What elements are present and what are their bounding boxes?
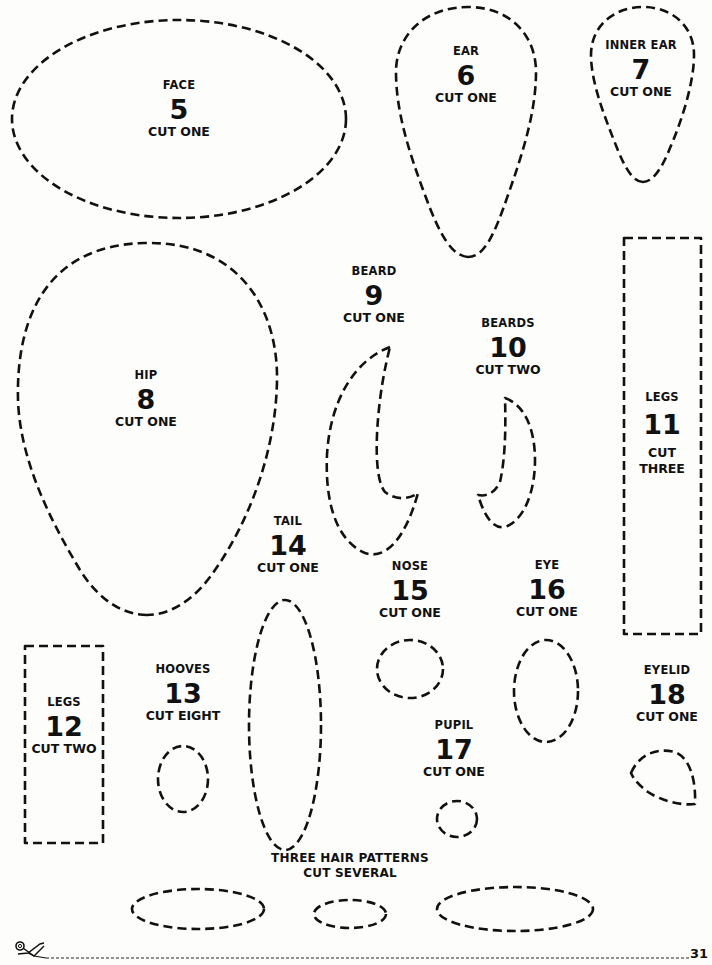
scissors-icon	[14, 940, 48, 960]
piece-quantity: CUT EIGHT	[146, 710, 221, 723]
eye-pattern-outline	[514, 640, 578, 742]
tail-label: TAIL 14 CUT ONE	[257, 516, 319, 574]
pattern-shapes	[0, 0, 712, 965]
piece-name: LEGS	[31, 697, 96, 709]
piece-quantity: CUT ONE	[605, 86, 677, 99]
hip-label: HIP 8 CUT ONE	[115, 370, 177, 428]
page-number: 31	[690, 946, 708, 961]
pupil-pattern-outline	[437, 801, 477, 837]
piece-quantity: CUT ONE	[257, 562, 319, 575]
piece-quantity-line2: THREE	[639, 461, 685, 477]
beards-label: BEARDS 10 CUT TWO	[475, 318, 540, 376]
piece-number: 18	[636, 681, 698, 708]
beards-pattern-outline	[478, 398, 535, 527]
beard-label: BEARD 9 CUT ONE	[343, 266, 405, 324]
piece-quantity: CUT ONE	[423, 766, 485, 779]
piece-number: 10	[475, 334, 540, 361]
face-label: FACE 5 CUT ONE	[148, 80, 210, 138]
piece-name: EYELID	[636, 665, 698, 677]
piece-quantity: CUT ONE	[435, 92, 497, 105]
piece-number: 16	[516, 576, 578, 603]
piece-name: INNER EAR	[605, 40, 677, 52]
hair-pattern-2-outline	[314, 900, 386, 928]
piece-quantity: CUT TWO	[475, 364, 540, 377]
piece-quantity: CUT ONE	[343, 312, 405, 325]
piece-name: EYE	[516, 560, 578, 572]
piece-number: 15	[379, 577, 441, 604]
hip-pattern-outline	[18, 243, 277, 615]
piece-name: EAR	[435, 46, 497, 58]
ear-label: EAR 6 CUT ONE	[435, 46, 497, 104]
hair-patterns-quantity: CUT SEVERAL	[271, 866, 429, 881]
piece-number: 12	[31, 713, 96, 740]
inner-ear-label: INNER EAR 7 CUT ONE	[605, 40, 677, 98]
hair-pattern-3-outline	[437, 887, 593, 931]
hooves-pattern-outline	[158, 746, 208, 812]
piece-name: TAIL	[257, 516, 319, 528]
piece-quantity: CUT TWO	[31, 743, 96, 756]
legs-11-label: LEGS 11 CUT THREE	[639, 390, 685, 476]
piece-number: 6	[435, 62, 497, 89]
piece-name: BEARDS	[475, 318, 540, 330]
legs-12-label: LEGS 12 CUT TWO	[31, 697, 96, 755]
hair-patterns-title: THREE HAIR PATTERNS	[271, 851, 429, 866]
hair-patterns-label: THREE HAIR PATTERNS CUT SEVERAL	[271, 851, 429, 881]
piece-quantity: CUT ONE	[636, 711, 698, 724]
piece-quantity: CUT ONE	[379, 607, 441, 620]
piece-quantity: CUT ONE	[115, 416, 177, 429]
hooves-label: HOOVES 13 CUT EIGHT	[146, 664, 221, 722]
piece-number: 11	[639, 408, 685, 442]
piece-name: BEARD	[343, 266, 405, 278]
hair-pattern-1-outline	[132, 889, 264, 929]
piece-quantity-line1: CUT	[639, 445, 685, 461]
piece-name: FACE	[148, 80, 210, 92]
piece-name: LEGS	[639, 390, 685, 404]
piece-quantity: CUT ONE	[516, 606, 578, 619]
eyelid-label: EYELID 18 CUT ONE	[636, 665, 698, 723]
beard-pattern-outline	[327, 347, 418, 554]
piece-number: 13	[146, 680, 221, 707]
piece-number: 17	[423, 736, 485, 763]
piece-number: 14	[257, 532, 319, 559]
pupil-label: PUPIL 17 CUT ONE	[423, 720, 485, 778]
pattern-page: FACE 5 CUT ONE EAR 6 CUT ONE INNER EAR 7…	[0, 0, 712, 965]
nose-pattern-outline	[377, 640, 443, 698]
piece-name: PUPIL	[423, 720, 485, 732]
piece-number: 8	[115, 386, 177, 413]
eye-label: EYE 16 CUT ONE	[516, 560, 578, 618]
piece-number: 5	[148, 96, 210, 123]
piece-number: 9	[343, 282, 405, 309]
piece-quantity: CUT ONE	[148, 126, 210, 139]
piece-name: HIP	[115, 370, 177, 382]
piece-name: HOOVES	[146, 664, 221, 676]
nose-label: NOSE 15 CUT ONE	[379, 561, 441, 619]
piece-name: NOSE	[379, 561, 441, 573]
tail-pattern-outline	[249, 600, 321, 850]
piece-number: 7	[605, 56, 677, 83]
eyelid-pattern-outline	[631, 751, 695, 805]
